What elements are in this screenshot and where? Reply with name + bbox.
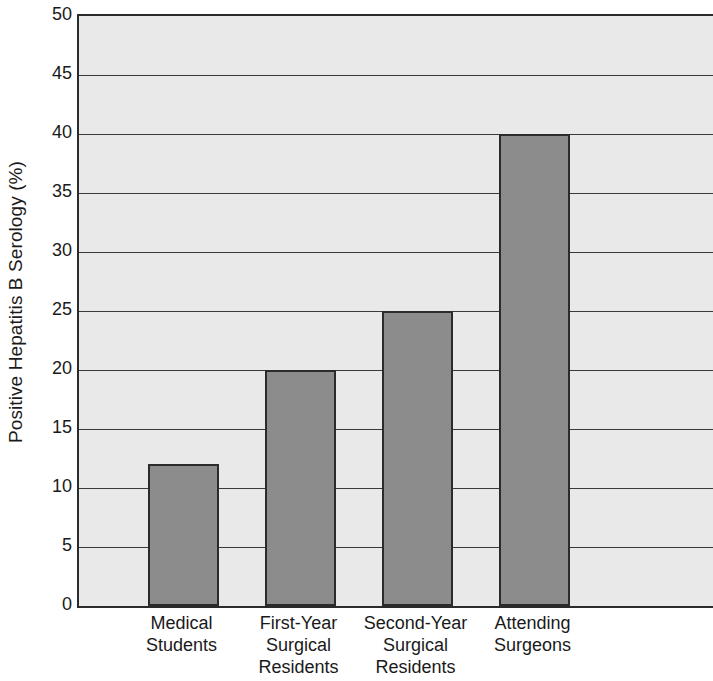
y-axis-tick-label: 30 [34, 241, 72, 259]
y-axis-title: Positive Hepatitis B Serology (%) [0, 0, 32, 604]
y-axis-tick-label: 50 [34, 5, 72, 23]
y-axis-tick-label: 35 [34, 182, 72, 200]
y-axis-tick-labels: 05101520253035404550 [34, 0, 72, 681]
x-axis-tick-label: First-Year Surgical Residents [240, 612, 357, 678]
y-axis-tick-label: 0 [34, 595, 72, 613]
y-axis-tick-label: 15 [34, 418, 72, 436]
y-axis-tick-label: 5 [34, 536, 72, 554]
bar [382, 311, 453, 606]
y-axis-tick-label: 25 [34, 300, 72, 318]
bar [148, 464, 219, 606]
bar [265, 370, 336, 606]
y-axis-tick-label: 40 [34, 123, 72, 141]
x-axis-tick-label: Attending Surgeons [474, 612, 591, 656]
plot-area [77, 14, 713, 608]
x-axis-tick-label: Second-Year Surgical Residents [357, 612, 474, 678]
y-axis-tick-label: 20 [34, 359, 72, 377]
y-axis-title-text: Positive Hepatitis B Serology (%) [5, 161, 27, 443]
y-axis-tick-label: 10 [34, 477, 72, 495]
bar [499, 134, 570, 606]
y-axis-tick-label: 45 [34, 64, 72, 82]
x-axis-tick-labels: Medical StudentsFirst-Year Surgical Resi… [77, 612, 711, 681]
x-axis-tick-label: Medical Students [123, 612, 240, 656]
bars-group [79, 16, 713, 606]
